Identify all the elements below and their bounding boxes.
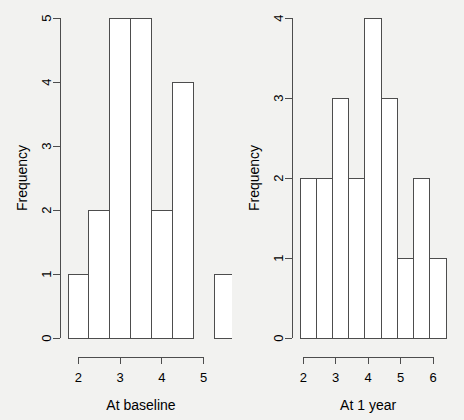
x-axis-title: At baseline [106,397,175,413]
y-tick-label: 3 [271,94,286,101]
histogram-bar [110,18,131,338]
y-tick-label: 1 [39,270,54,277]
histogram-bar [316,178,332,338]
x-tick-label: 5 [397,370,404,385]
histogram-panel-at-1-year: 01234Frequency23456At 1 year [232,0,464,420]
histogram-bar [397,258,413,338]
y-axis-title: Frequency [246,145,262,211]
x-tick-label: 5 [200,370,207,385]
y-tick-label: 0 [271,334,286,341]
histogram-bar [172,82,193,338]
histogram-bar [214,274,232,338]
histogram-bar [414,178,430,338]
histogram-bar [381,98,397,338]
y-tick-label: 5 [39,14,54,21]
histogram-panel-at-baseline: 012345Frequency2345At baseline [0,0,232,420]
x-axis-title: At 1 year [340,397,396,413]
histogram-bar [349,178,365,338]
x-tick-label: 4 [365,370,372,385]
histogram-bar [68,274,89,338]
histogram-figure: 012345Frequency2345At baseline 01234Freq… [0,0,464,420]
x-tick-label: 6 [429,370,436,385]
y-tick-label: 4 [271,14,286,21]
y-tick-label: 2 [271,174,286,181]
y-tick-label: 1 [271,254,286,261]
y-tick-label: 3 [39,142,54,149]
x-tick-label: 2 [75,370,82,385]
y-tick-label: 4 [39,78,54,85]
histogram-bar [430,258,446,338]
x-tick-label: 3 [332,370,339,385]
y-tick-label: 2 [39,206,54,213]
plot-area-right: 01234Frequency23456At 1 year [232,0,464,420]
histogram-bar [151,210,172,338]
histogram-bar [300,178,316,338]
y-axis-title: Frequency [14,145,30,211]
x-tick-label: 4 [158,370,165,385]
plot-area-left: 012345Frequency2345At baseline [0,0,232,420]
x-tick-label: 3 [117,370,124,385]
histogram-bar [365,18,381,338]
histogram-bar [89,210,110,338]
histogram-bar [131,18,152,338]
histogram-bar [332,98,348,338]
y-tick-label: 0 [39,334,54,341]
x-tick-label: 2 [300,370,307,385]
